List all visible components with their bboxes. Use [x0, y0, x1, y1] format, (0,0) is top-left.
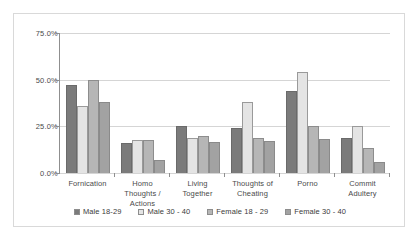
legend-swatch-icon	[285, 209, 291, 215]
y-axis-tick-label: 25.0%	[16, 122, 58, 131]
x-axis-label-line: Fornication	[60, 179, 115, 189]
bar[interactable]	[187, 138, 198, 173]
y-axis-tick-label: 0.0%	[16, 169, 58, 178]
x-axis-label: LivingTogether	[170, 179, 225, 209]
bar[interactable]	[132, 140, 143, 173]
bar[interactable]	[319, 139, 330, 173]
x-axis-label-line: Cheating	[225, 189, 280, 199]
bar[interactable]	[143, 140, 154, 173]
legend-label: Female 18 - 29	[216, 207, 268, 216]
y-axis-tick-label: 75.0%	[16, 29, 58, 38]
bar[interactable]	[209, 142, 220, 173]
bar[interactable]	[341, 138, 352, 173]
bar[interactable]	[374, 162, 385, 173]
bar[interactable]	[121, 143, 132, 173]
bar[interactable]	[363, 148, 374, 173]
legend-item[interactable]: Female 30 - 40	[285, 207, 346, 216]
bar-group	[115, 33, 170, 173]
bar[interactable]	[264, 141, 275, 173]
bar-group	[335, 33, 390, 173]
bar[interactable]	[198, 136, 209, 173]
y-axis: 75.0%50.0%25.0%0.0%	[14, 33, 58, 173]
bar[interactable]	[297, 72, 308, 173]
chart-container: 75.0%50.0%25.0%0.0% FornicationHomoThoug…	[13, 13, 405, 227]
x-axis-label-line: Together	[170, 189, 225, 199]
x-axis-ticks	[60, 173, 390, 177]
bar[interactable]	[231, 128, 242, 173]
bar-group	[170, 33, 225, 173]
chart-legend: Male 18-29Male 30 - 40Female 18 - 29Fema…	[14, 207, 406, 216]
x-axis-label-line: Commit	[335, 179, 390, 189]
x-axis-tick	[60, 173, 115, 177]
bar[interactable]	[99, 102, 110, 173]
x-axis-label-line: Thoughts of	[225, 179, 280, 189]
bar[interactable]	[286, 91, 297, 173]
x-axis-label: Fornication	[60, 179, 115, 209]
legend-item[interactable]: Male 18-29	[74, 207, 122, 216]
bar-group	[225, 33, 280, 173]
bar[interactable]	[77, 106, 88, 173]
x-axis-tick	[170, 173, 225, 177]
bar[interactable]	[242, 102, 253, 173]
x-axis-label: Porno	[280, 179, 335, 209]
bar[interactable]	[88, 80, 99, 173]
x-axis-tick	[225, 173, 280, 177]
x-axis-label-line: Homo	[115, 179, 170, 189]
legend-swatch-icon	[74, 209, 80, 215]
legend-item[interactable]: Male 30 - 40	[138, 207, 190, 216]
bar-groups	[60, 33, 390, 173]
legend-label: Male 30 - 40	[147, 207, 190, 216]
x-axis-tick	[280, 173, 335, 177]
x-axis-label: Thoughts ofCheating	[225, 179, 280, 209]
bar[interactable]	[253, 138, 264, 173]
x-axis-label-line: Porno	[280, 179, 335, 189]
y-axis-tick-label: 50.0%	[16, 75, 58, 84]
bar[interactable]	[176, 126, 187, 173]
legend-item[interactable]: Female 18 - 29	[207, 207, 268, 216]
x-axis-labels: FornicationHomoThoughts /ActionsLivingTo…	[60, 179, 390, 209]
bar-group	[280, 33, 335, 173]
bar[interactable]	[66, 85, 77, 173]
x-axis-tick	[115, 173, 170, 177]
bar[interactable]	[154, 160, 165, 173]
x-axis-label: CommitAdultery	[335, 179, 390, 209]
bar[interactable]	[352, 126, 363, 173]
bar[interactable]	[308, 126, 319, 173]
bar-group	[60, 33, 115, 173]
x-axis-tick	[335, 173, 390, 177]
x-axis-label-line: Adultery	[335, 189, 390, 199]
x-axis-label-line: Thoughts /	[115, 189, 170, 199]
legend-label: Male 18-29	[83, 207, 122, 216]
legend-swatch-icon	[138, 209, 144, 215]
x-axis-label-line: Living	[170, 179, 225, 189]
x-axis-label: HomoThoughts /Actions	[115, 179, 170, 209]
legend-swatch-icon	[207, 209, 213, 215]
legend-label: Female 30 - 40	[294, 207, 346, 216]
